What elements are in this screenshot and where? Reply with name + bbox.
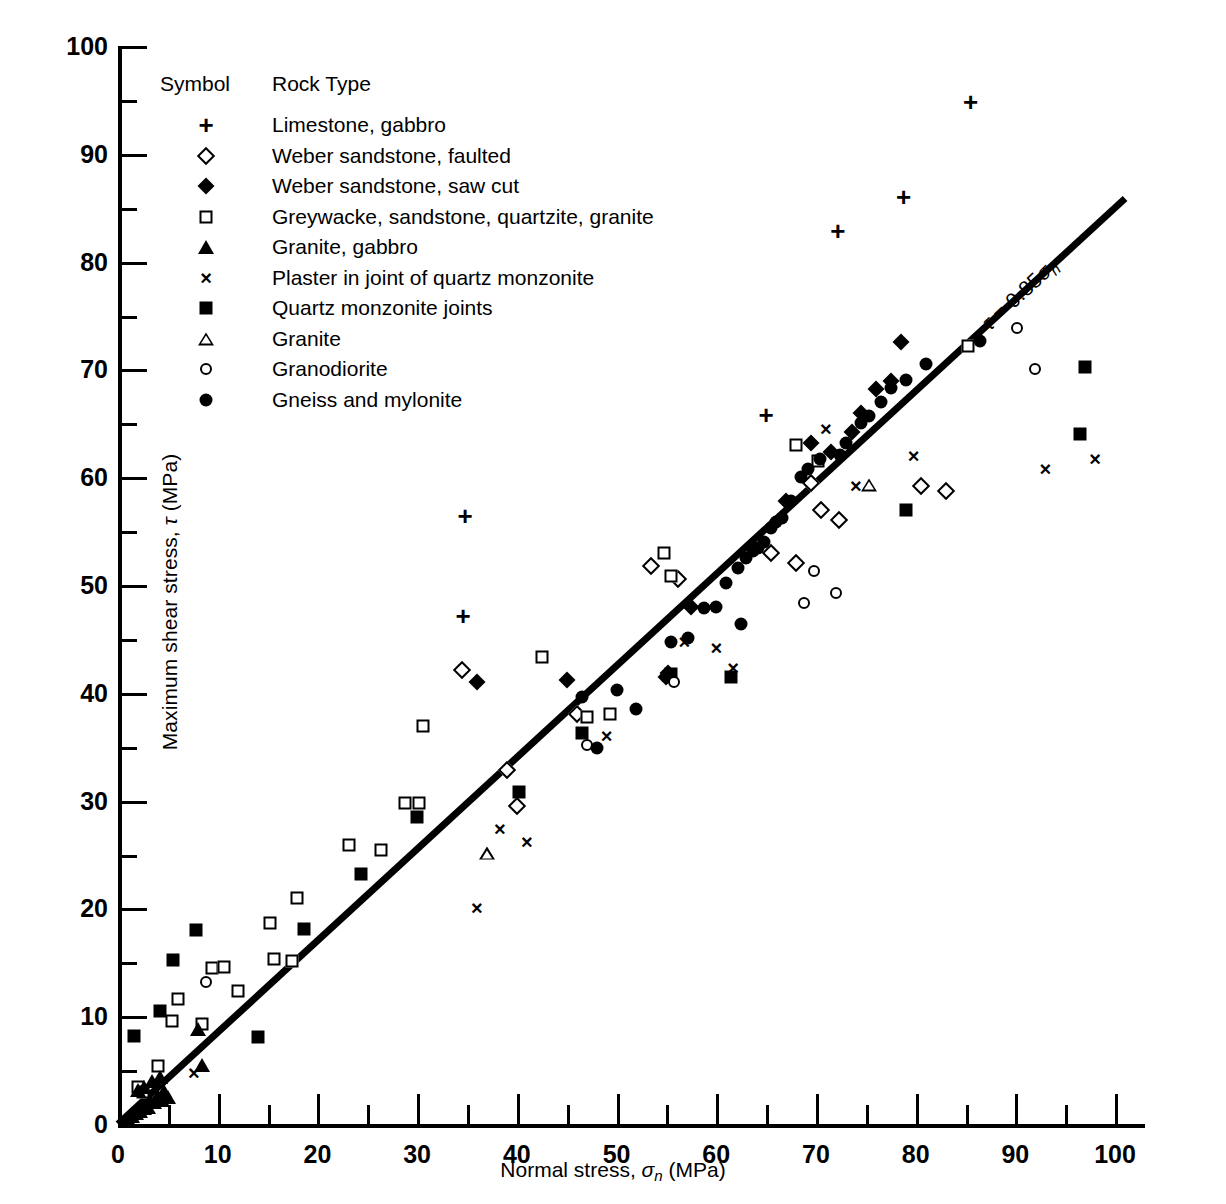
legend-symbol-cell <box>160 171 272 202</box>
legend-item-label: Quartz monzonite joints <box>272 296 493 320</box>
open-square-glyph <box>200 210 213 223</box>
x-tick-label: 60 <box>702 1140 730 1169</box>
open-circle-glyph <box>200 363 212 375</box>
cross-glyph: × <box>200 268 212 288</box>
x-tick-label: 90 <box>1001 1140 1029 1169</box>
legend-item-label: Granite <box>272 327 341 351</box>
filled-circle-glyph <box>200 393 213 406</box>
legend-item-label: Weber sandstone, faulted <box>272 144 511 168</box>
y-tick-label: 60 <box>80 463 108 492</box>
y-tick-label: 40 <box>80 678 108 707</box>
legend-symbol-cell: × <box>160 263 272 294</box>
legend-symbol-cell <box>160 202 272 233</box>
filled-square-glyph <box>200 302 213 315</box>
legend-symbol-cell <box>160 232 272 263</box>
x-axis-title-subscript: n <box>654 1167 662 1184</box>
legend-item-label: Plaster in joint of quartz monzonite <box>272 266 594 290</box>
y-tick-label: 10 <box>80 1002 108 1031</box>
legend-item[interactable]: Granite, gabbro <box>160 232 654 263</box>
x-axis-title-sigma: σ <box>642 1158 655 1181</box>
y-tick-label: 20 <box>80 894 108 923</box>
legend: Symbol Rock Type +Limestone, gabbroWeber… <box>160 72 654 415</box>
legend-symbol-cell <box>160 324 272 355</box>
legend-header-symbol: Symbol <box>160 72 272 96</box>
legend-item[interactable]: Weber sandstone, saw cut <box>160 171 654 202</box>
legend-symbol-cell <box>160 141 272 172</box>
y-tick-label: 50 <box>80 571 108 600</box>
legend-symbol-cell <box>160 354 272 385</box>
legend-item-label: Gneiss and mylonite <box>272 388 462 412</box>
x-tick-label: 30 <box>403 1140 431 1169</box>
y-tick-label: 70 <box>80 355 108 384</box>
legend-item[interactable]: Quartz monzonite joints <box>160 293 654 324</box>
legend-symbol-cell <box>160 293 272 324</box>
x-tick-label: 20 <box>304 1140 332 1169</box>
x-tick-label: 40 <box>503 1140 531 1169</box>
open-diamond-glyph <box>197 147 215 165</box>
x-tick-label: 0 <box>111 1140 125 1169</box>
open-triangle-glyph <box>198 332 214 345</box>
filled-triangle-glyph <box>198 240 214 254</box>
x-tick-label: 70 <box>802 1140 830 1169</box>
filled-diamond-glyph <box>198 178 215 195</box>
legend-item[interactable]: Greywacke, sandstone, quartzite, granite <box>160 202 654 233</box>
legend-item-label: Greywacke, sandstone, quartzite, granite <box>272 205 654 229</box>
legend-item-label: Limestone, gabbro <box>272 113 446 137</box>
plus-glyph: + <box>198 112 213 138</box>
legend-item-label: Granodiorite <box>272 357 388 381</box>
y-tick-label: 90 <box>80 139 108 168</box>
legend-item-label: Weber sandstone, saw cut <box>272 174 519 198</box>
legend-item[interactable]: ×Plaster in joint of quartz monzonite <box>160 263 654 294</box>
y-tick-label: 100 <box>66 32 108 61</box>
legend-symbol-cell <box>160 385 272 416</box>
legend-rows: +Limestone, gabbroWeber sandstone, fault… <box>160 110 654 415</box>
x-tick-label: 80 <box>902 1140 930 1169</box>
legend-item[interactable]: Granodiorite <box>160 354 654 385</box>
x-tick-label: 10 <box>204 1140 232 1169</box>
legend-header-rock-type: Rock Type <box>272 72 371 96</box>
legend-item[interactable]: Weber sandstone, faulted <box>160 141 654 172</box>
legend-item[interactable]: Gneiss and mylonite <box>160 385 654 416</box>
legend-item-label: Granite, gabbro <box>272 235 418 259</box>
legend-header: Symbol Rock Type <box>160 72 654 96</box>
y-tick-label: 80 <box>80 247 108 276</box>
y-tick-label: 30 <box>80 786 108 815</box>
x-tick-label: 50 <box>603 1140 631 1169</box>
legend-item[interactable]: +Limestone, gabbro <box>160 110 654 141</box>
x-tick-label: 100 <box>1094 1140 1136 1169</box>
figure-root: Maximum shear stress, τ (MPa) Normal str… <box>0 0 1226 1204</box>
legend-symbol-cell: + <box>160 110 272 141</box>
legend-item[interactable]: Granite <box>160 324 654 355</box>
y-tick-label: 0 <box>94 1110 108 1139</box>
